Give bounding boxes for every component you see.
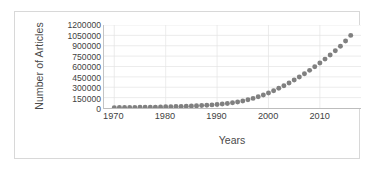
data-point — [338, 44, 343, 49]
data-point — [220, 102, 225, 107]
data-point — [158, 104, 163, 108]
data-point — [112, 105, 117, 108]
y-tick-label: 0 — [96, 105, 101, 114]
data-point — [168, 104, 173, 108]
chart-figure: Number of Articles 015000030000045000060… — [0, 0, 378, 173]
data-point — [122, 105, 127, 108]
y-axis-title: Number of Articles — [33, 18, 45, 114]
data-point — [127, 105, 132, 108]
data-point — [328, 53, 333, 58]
y-tick-label: 750000 — [72, 52, 101, 61]
data-point — [271, 88, 276, 93]
data-point — [251, 96, 256, 101]
y-tick-label: 150000 — [72, 94, 101, 103]
x-tick-label: 2010 — [309, 111, 329, 121]
plot-area — [103, 25, 361, 109]
data-point — [230, 100, 235, 105]
data-point — [209, 102, 214, 107]
data-point — [312, 64, 317, 69]
data-point — [261, 93, 266, 98]
x-tick-label: 1980 — [155, 111, 175, 121]
x-tick-label: 1990 — [206, 111, 226, 121]
y-tick-label: 1200000 — [68, 21, 101, 30]
data-point — [245, 97, 250, 102]
data-point — [256, 94, 261, 99]
data-point — [276, 86, 281, 91]
y-tick-label: 600000 — [72, 63, 101, 72]
data-point — [281, 83, 286, 88]
x-tick-label: 1970 — [103, 111, 123, 121]
data-point — [323, 57, 328, 62]
data-point — [189, 104, 194, 108]
data-point — [194, 103, 199, 108]
data-point — [235, 99, 240, 104]
data-point — [163, 104, 168, 108]
data-point — [307, 68, 312, 73]
data-point — [199, 103, 204, 108]
y-tick-label: 1050000 — [68, 31, 101, 40]
data-point — [184, 104, 189, 108]
data-point — [292, 78, 297, 83]
data-point — [317, 61, 322, 66]
data-point — [333, 48, 338, 53]
data-point — [143, 105, 148, 108]
x-tick-label: 2000 — [258, 111, 278, 121]
data-point — [179, 104, 184, 108]
data-point — [297, 75, 302, 80]
x-axis-tick-labels: 19701980199020002010 — [103, 111, 361, 125]
data-point — [173, 104, 178, 108]
y-tick-label: 900000 — [72, 42, 101, 51]
chart-frame: Number of Articles 015000030000045000060… — [14, 11, 360, 159]
data-point — [343, 39, 348, 44]
data-point — [302, 71, 307, 76]
x-axis-title: Years — [103, 134, 361, 146]
y-tick-label: 300000 — [72, 84, 101, 93]
scatter-series — [104, 25, 361, 108]
data-point — [132, 105, 137, 108]
data-point — [153, 105, 158, 108]
data-point — [117, 105, 122, 108]
data-point — [348, 33, 353, 38]
data-point — [287, 80, 292, 85]
data-point — [215, 102, 220, 107]
y-axis-tick-labels: 0150000300000450000600000750000900000105… — [47, 25, 101, 109]
data-point — [148, 105, 153, 108]
data-point — [240, 98, 245, 103]
y-tick-label: 450000 — [72, 73, 101, 82]
data-point — [225, 101, 230, 106]
data-point — [266, 90, 271, 95]
data-point — [137, 105, 142, 108]
data-point — [204, 103, 209, 108]
